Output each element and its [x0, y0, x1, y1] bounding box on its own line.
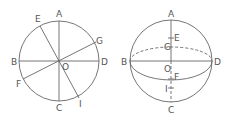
label-a: A	[56, 9, 63, 19]
label-g: G	[164, 42, 171, 52]
left-figure: A E G B D O F C I	[11, 9, 108, 113]
label-i: I	[165, 84, 168, 94]
diameter-ei	[40, 26, 79, 98]
label-f: F	[174, 72, 179, 82]
label-o: O	[164, 64, 171, 74]
label-f: F	[16, 79, 21, 89]
label-e: E	[35, 14, 41, 24]
label-o: O	[62, 62, 69, 72]
label-c: C	[168, 105, 174, 115]
label-b: B	[11, 57, 17, 67]
label-e: E	[174, 33, 180, 43]
label-g: G	[96, 36, 103, 46]
label-a: A	[168, 9, 175, 19]
label-b: B	[121, 57, 127, 67]
label-d: D	[214, 57, 221, 67]
right-figure: A E G B D O F I C	[121, 9, 221, 115]
diagram-canvas: A E G B D O F C I A E G B D O F I C	[0, 0, 230, 125]
label-d: D	[101, 57, 108, 67]
label-c: C	[56, 103, 62, 113]
diameter-fg	[23, 42, 96, 79]
label-i: I	[79, 99, 82, 109]
